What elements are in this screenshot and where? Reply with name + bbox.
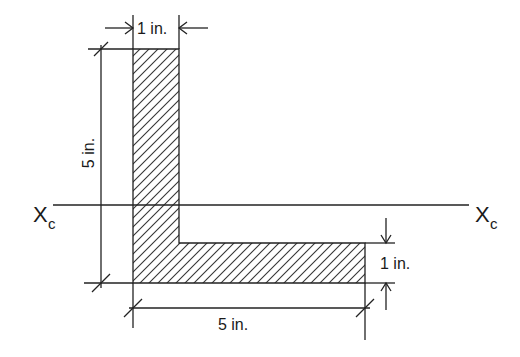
axis-right-sub: c	[490, 215, 498, 232]
l-section-diagram: 1 in. 5 in. 1 in. 5 in. X c X c	[0, 0, 520, 357]
bottom-width-label: 5 in.	[218, 316, 248, 333]
l-shape-section	[133, 49, 365, 283]
top-width-dimension: 1 in.	[105, 15, 208, 49]
axis-label-left: X c	[33, 202, 56, 232]
bottom-width-dimension: 5 in.	[124, 283, 374, 340]
right-thickness-dimension: 1 in.	[365, 218, 410, 310]
left-height-dimension: 5 in.	[80, 42, 133, 292]
axis-label-right: X c	[475, 202, 498, 232]
left-height-label: 5 in.	[80, 138, 97, 168]
l-shape-fill	[133, 49, 365, 283]
top-width-label: 1 in.	[137, 20, 167, 37]
axis-left-main: X	[33, 202, 48, 227]
right-thickness-label: 1 in.	[380, 255, 410, 272]
axis-right-main: X	[475, 202, 490, 227]
axis-left-sub: c	[48, 215, 56, 232]
